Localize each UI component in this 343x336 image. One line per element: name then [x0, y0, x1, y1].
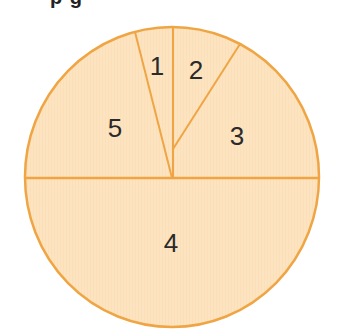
slice-label-1: 1 — [150, 51, 164, 81]
slice-label-2: 2 — [189, 55, 203, 85]
pie-chart: 1 2 3 4 5 — [0, 0, 343, 336]
slice-label-4: 4 — [164, 228, 178, 258]
slice-label-3: 3 — [230, 121, 244, 151]
slice-label-5: 5 — [108, 113, 122, 143]
